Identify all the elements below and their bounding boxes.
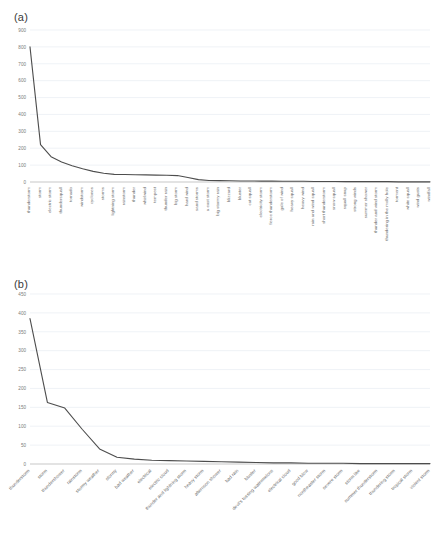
x-axis-tick-label: storm	[36, 468, 48, 480]
chart-panel-b: (b) 050100150200250300350400450thunderst…	[0, 272, 438, 549]
y-axis-tick-label: 400	[18, 112, 26, 117]
x-axis-tick-label: whirlwind	[142, 186, 147, 205]
x-axis-tick-label: gale of wind	[279, 186, 284, 210]
x-axis-tick-label: tempest	[152, 186, 157, 202]
x-axis-tick-label: thunderstorm	[26, 187, 31, 213]
x-axis-tick-label: rain and wind squall	[310, 187, 315, 226]
x-axis-tick-label: big stormy rain	[215, 186, 220, 215]
y-axis-tick-label: 900	[18, 28, 26, 33]
y-axis-tick-label: 500	[18, 95, 26, 100]
y-axis-tick-label: 350	[18, 330, 26, 335]
y-axis-tick-label: 100	[18, 163, 26, 168]
panel-label-b: (b)	[14, 278, 28, 290]
x-axis-tick-label: short thunderstorm	[321, 187, 326, 224]
x-axis-tick-label: storms	[100, 186, 105, 200]
x-axis-tick-label: stormy	[104, 468, 118, 482]
x-axis-tick-label: bluster	[237, 186, 242, 200]
x-axis-tick-label: heavy squall	[289, 187, 294, 211]
x-axis-tick-label: bad rain	[224, 468, 240, 484]
x-axis-tick-label: storm like	[344, 468, 362, 486]
y-axis-tick-label: 700	[18, 62, 26, 67]
y-axis-tick-label: 0	[23, 180, 26, 185]
data-series-line	[30, 319, 430, 464]
x-axis-tick-label: thunder and wind storm	[373, 187, 378, 233]
x-axis-tick-label: summer thunderstorm	[343, 468, 378, 503]
x-axis-tick-label: thunder rain	[163, 186, 168, 210]
x-axis-tick-label: tornado	[68, 186, 73, 201]
y-axis-tick-label: 300	[18, 348, 26, 353]
y-axis-tick-label: 200	[18, 146, 26, 151]
x-axis-tick-label: storm	[37, 187, 42, 198]
chart-b-svg: 050100150200250300350400450thunderstorms…	[0, 272, 438, 549]
x-axis-tick-label: cyclones	[89, 186, 94, 204]
x-axis-tick-label: bluster	[244, 468, 258, 482]
y-axis-tick-label: 300	[18, 129, 26, 134]
y-axis-tick-label: 600	[18, 78, 26, 83]
x-axis-tick-label: electrical	[136, 468, 152, 484]
y-axis-tick-label: 400	[18, 311, 26, 316]
x-axis-tick-label: torment	[394, 186, 399, 202]
x-axis-tick-label: windstorm	[79, 187, 84, 207]
x-axis-tick-label: rainstorm	[121, 187, 126, 206]
chart-a-svg: 0100200300400500600700800900thunderstorm…	[0, 0, 438, 272]
x-axis-tick-label: snow squall	[331, 187, 336, 210]
y-axis-tick-label: 450	[18, 292, 26, 297]
x-axis-tick-label: fierce thunderstorm	[268, 187, 273, 225]
x-axis-tick-label: heavy wind	[300, 186, 305, 209]
x-axis-tick-label: summer shower	[363, 186, 368, 218]
x-axis-tick-label: rainstorm	[66, 468, 83, 485]
x-axis-tick-label: electric storm	[47, 187, 52, 213]
x-axis-tick-label: strong winds	[352, 186, 357, 211]
x-axis-tick-label: big storm	[173, 187, 178, 205]
y-axis-tick-label: 0	[23, 462, 26, 467]
x-axis-tick-label: hard wind	[184, 186, 189, 206]
panel-label-a: (a)	[14, 11, 28, 23]
y-axis-tick-label: 50	[21, 443, 27, 448]
x-axis-tick-label: sand storms	[194, 186, 199, 211]
x-axis-tick-label: cat squall	[247, 187, 252, 206]
x-axis-tick-label: a east storm	[205, 187, 210, 211]
x-axis-tick-label: thunderstorm	[8, 468, 31, 491]
x-axis-tick-label: squall snap	[342, 186, 347, 209]
figure-container: (a) 0100200300400500600700800900thunders…	[0, 0, 438, 549]
y-axis-tick-label: 800	[18, 45, 26, 50]
y-axis-tick-label: 200	[18, 386, 26, 391]
y-axis-tick-label: 250	[18, 367, 26, 372]
x-axis-tick-label: thundersquall	[58, 187, 63, 213]
x-axis-tick-label: windfall	[426, 187, 431, 202]
y-axis-tick-label: 150	[18, 405, 26, 410]
x-axis-tick-label: lightning storm	[110, 187, 115, 216]
x-axis-tick-label: electricity storm	[258, 187, 263, 218]
x-axis-tick-label: thundering in the molly hole	[384, 186, 389, 240]
y-axis-tick-label: 100	[18, 424, 26, 429]
x-axis-tick-label: thunder	[131, 186, 136, 201]
x-axis-tick-label: blizzard	[226, 186, 231, 202]
x-axis-tick-label: wind gusts	[415, 186, 420, 208]
chart-panel-a: (a) 0100200300400500600700800900thunders…	[0, 0, 438, 272]
x-axis-tick-label: white squall	[405, 187, 410, 210]
